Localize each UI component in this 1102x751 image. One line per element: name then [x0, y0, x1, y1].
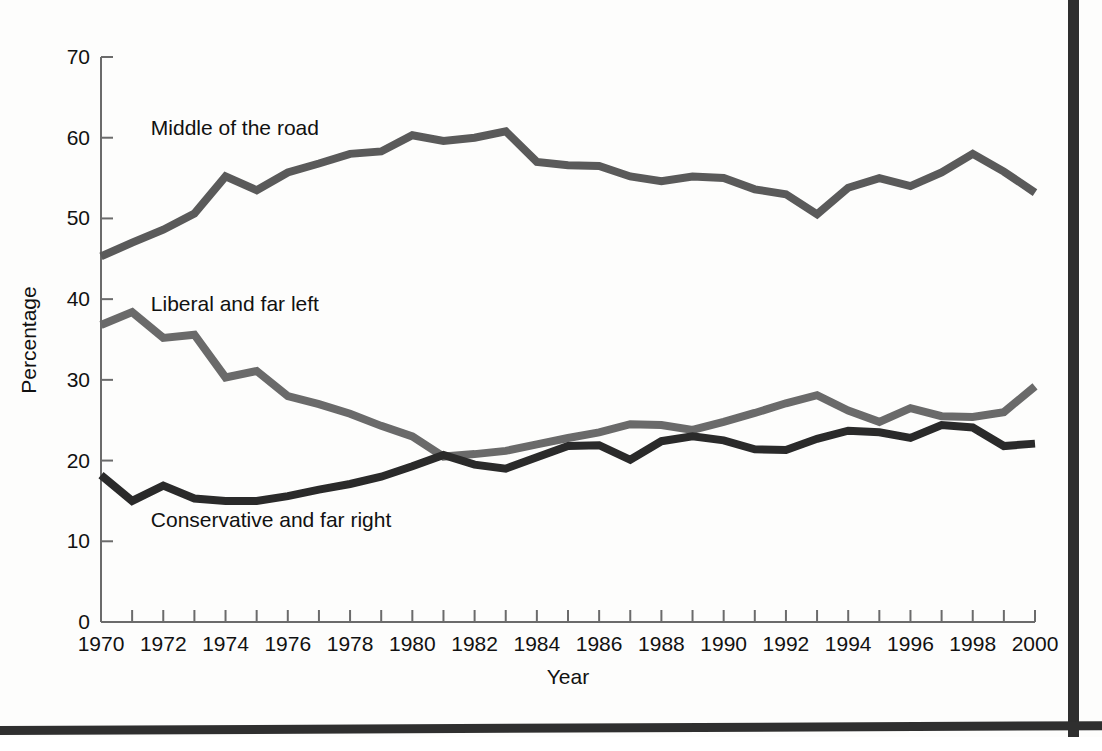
- y-tick-label: 60: [67, 126, 90, 149]
- line-chart-svg: 010203040506070 197019721974197619781980…: [0, 0, 1068, 726]
- scanned-page: 010203040506070 197019721974197619781980…: [0, 0, 1102, 751]
- x-tick-label: 1994: [825, 632, 872, 655]
- x-tick-label: 1996: [887, 632, 934, 655]
- x-tick-label: 1978: [327, 632, 374, 655]
- x-tick-label: 1990: [700, 632, 747, 655]
- x-tick-label: 1974: [202, 632, 249, 655]
- y-tick-label: 50: [67, 206, 90, 229]
- y-tick-label: 0: [78, 610, 90, 633]
- x-tick-label: 1984: [514, 632, 561, 655]
- series-lines-group: [101, 131, 1035, 501]
- page-border-right: [1068, 0, 1079, 737]
- x-axis-tick-labels: 1970197219741976197819801982198419861988…: [78, 632, 1059, 655]
- y-tick-label: 20: [67, 449, 90, 472]
- x-axis-ticks: [101, 610, 1035, 622]
- x-tick-label: 1986: [576, 632, 623, 655]
- x-tick-label: 1976: [264, 632, 311, 655]
- x-tick-label: 1988: [638, 632, 685, 655]
- y-tick-label: 10: [67, 529, 90, 552]
- y-axis-tick-labels: 010203040506070: [67, 45, 90, 633]
- page-margin-bottom: [0, 737, 1102, 751]
- x-tick-label: 1980: [389, 632, 436, 655]
- series-line: [101, 131, 1035, 256]
- x-tick-label: 1972: [140, 632, 187, 655]
- x-axis-title: Year: [547, 665, 589, 688]
- y-tick-label: 30: [67, 368, 90, 391]
- x-tick-label: 1982: [451, 632, 498, 655]
- x-tick-label: 2000: [1012, 632, 1059, 655]
- y-axis-ticks: [101, 57, 113, 622]
- series-annotation-label: Conservative and far right: [151, 508, 392, 531]
- series-annotation-label: Middle of the road: [151, 116, 319, 139]
- chart-figure: 010203040506070 197019721974197619781980…: [0, 0, 1068, 726]
- x-tick-label: 1992: [763, 632, 810, 655]
- x-tick-label: 1970: [78, 632, 125, 655]
- y-tick-label: 70: [67, 45, 90, 68]
- series-annotation-label: Liberal and far left: [151, 292, 319, 315]
- x-tick-label: 1998: [949, 632, 996, 655]
- y-tick-label: 40: [67, 287, 90, 310]
- y-axis-title: Percentage: [17, 286, 40, 393]
